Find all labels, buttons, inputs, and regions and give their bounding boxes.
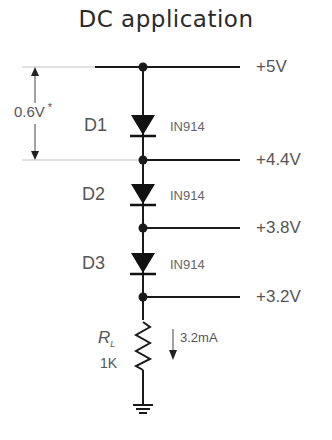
diode-name-d2: D2 [82, 184, 105, 205]
voltage-label-4-4v: +4.4V [256, 150, 301, 170]
node-4-4v [139, 156, 241, 165]
current-label: 3.2mA [180, 330, 218, 345]
voltage-label-3-2v: +3.2V [256, 287, 301, 307]
resistor-symbol-letter: R [98, 328, 110, 347]
diode-part-d2: IN914 [170, 188, 205, 203]
diode-name-d3: D3 [82, 253, 105, 274]
node-3-2v [139, 293, 241, 302]
current-arrow-icon [169, 329, 177, 360]
diode-d1-icon [130, 115, 156, 136]
diode-part-d3: IN914 [170, 257, 205, 272]
ground-icon [133, 405, 153, 413]
dimension-label: 0.6V* [14, 103, 52, 120]
resistor-symbol: RL [98, 328, 115, 349]
node-5v [95, 63, 240, 72]
voltage-label-5v: +5V [256, 57, 287, 77]
voltage-label-3-8v: +3.8V [256, 218, 301, 238]
diode-d3-icon [130, 253, 156, 274]
diode-part-d1: IN914 [170, 119, 205, 134]
dimension-marker: * [48, 101, 52, 113]
dimension-value: 0.6V [14, 103, 45, 120]
node-3-8v [139, 224, 241, 233]
resistor-subscript: L [110, 339, 115, 349]
diode-name-d1: D1 [84, 115, 107, 136]
resistor-value: 1K [100, 355, 117, 371]
diode-d2-icon [130, 184, 156, 205]
